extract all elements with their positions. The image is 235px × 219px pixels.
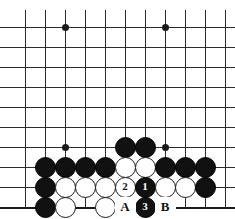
stone-black[interactable] [155,157,176,178]
star-point-icon [162,144,169,151]
grid-line-horizontal [0,67,235,68]
stone-black[interactable] [95,157,116,178]
grid-line-horizontal [0,107,235,108]
stone-black[interactable] [175,157,196,178]
point-label-b[interactable]: B [155,197,176,218]
stone-black[interactable] [55,157,76,178]
star-point-icon [62,24,69,31]
stone-black[interactable] [35,197,56,218]
stone-black[interactable] [35,157,56,178]
stone-black[interactable] [115,137,136,158]
grid-line-horizontal [0,127,235,128]
grid-line-horizontal [0,27,235,28]
star-point-icon [62,144,69,151]
go-board-diagram: 213 AB [0,0,235,219]
stone-white[interactable] [55,197,76,218]
stone-white[interactable] [95,197,116,218]
stone-white[interactable] [175,177,196,198]
stone-black[interactable] [75,157,96,178]
stone-white[interactable] [95,177,116,198]
grid-line-vertical [225,10,226,209]
stone-black[interactable] [35,177,56,198]
stone-white-move-2[interactable]: 2 [115,177,136,198]
stone-white[interactable] [55,177,76,198]
move-number: 1 [142,181,148,192]
move-number: 3 [142,201,148,212]
stone-white[interactable] [115,157,136,178]
stone-black[interactable] [195,177,216,198]
point-label-a[interactable]: A [115,197,136,218]
stone-black[interactable] [135,137,156,158]
stone-white[interactable] [75,177,96,198]
stone-white[interactable] [155,177,176,198]
stone-black-move-3[interactable]: 3 [135,197,156,218]
stone-white[interactable] [135,157,156,178]
move-number: 2 [122,181,128,192]
grid-line-vertical [25,10,26,209]
star-point-icon [162,24,169,31]
stone-black-move-1[interactable]: 1 [135,177,156,198]
stone-black[interactable] [195,157,216,178]
grid-line-horizontal [0,47,235,48]
grid-line-horizontal [0,87,235,88]
